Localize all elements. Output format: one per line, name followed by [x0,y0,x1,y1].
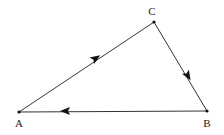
edge-a-c [19,22,154,112]
triangle-diagram: A B C [0,0,224,135]
arrowhead-b-to-a-icon [60,107,70,115]
edge-b-a [19,111,207,112]
vertex-a-label: A [15,117,23,129]
vertex-c-label: C [148,5,155,17]
vertex-b-label: B [203,117,210,129]
vertex-c-point [152,20,155,23]
edge-c-b [154,22,207,111]
vertex-b-point [205,109,208,112]
vertex-a-point [17,110,20,113]
